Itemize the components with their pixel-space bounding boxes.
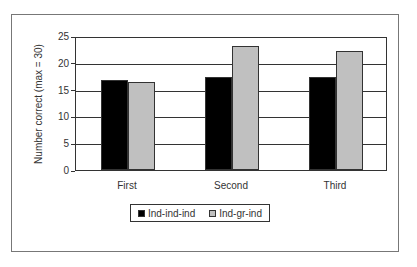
bar-ind-gr-ind-second	[232, 46, 259, 170]
y-axis-label: Number correct (max = 30)	[33, 44, 44, 164]
y-tick-label: 0	[49, 165, 69, 176]
x-tick-label: Second	[191, 180, 271, 191]
legend-item: Ind-ind-ind	[138, 208, 195, 219]
bar-ind-ind-ind-second	[205, 77, 232, 170]
legend: Ind-ind-indInd-gr-ind	[130, 204, 270, 222]
y-tick-label: 20	[49, 58, 69, 69]
y-tick-label: 25	[49, 31, 69, 42]
bar-ind-gr-ind-third	[336, 51, 363, 170]
legend-item: Ind-gr-ind	[209, 208, 262, 219]
y-tick-label: 10	[49, 111, 69, 122]
x-tick-label: First	[87, 180, 167, 191]
legend-label: Ind-ind-ind	[148, 208, 195, 219]
y-tick-label: 15	[49, 85, 69, 96]
bar-ind-gr-ind-first	[128, 82, 155, 170]
legend-swatch-icon	[209, 210, 216, 217]
bar-ind-ind-ind-third	[309, 77, 336, 170]
legend-swatch-icon	[138, 210, 145, 217]
y-tick-label: 5	[49, 138, 69, 149]
bar-ind-ind-ind-first	[101, 80, 128, 170]
x-tick-label: Third	[295, 180, 375, 191]
plot-area	[75, 37, 387, 171]
legend-label: Ind-gr-ind	[219, 208, 262, 219]
